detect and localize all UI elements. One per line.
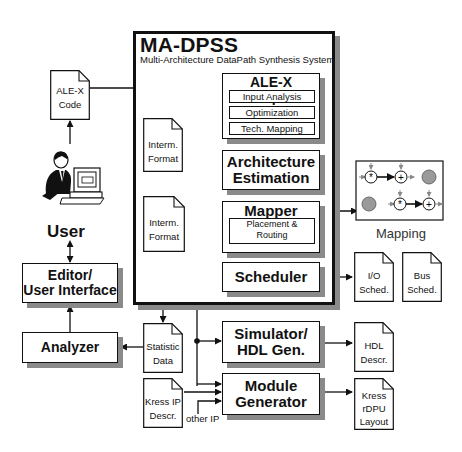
doc-bus-sched[interactable]: Bus Sched. — [402, 252, 442, 302]
scheduler-block[interactable]: Scheduler — [222, 262, 320, 292]
editor-line2: User Interface — [23, 283, 116, 298]
module-gen-line2: Generator — [235, 394, 307, 410]
doc-io-sched[interactable]: I/O Sched. — [354, 252, 394, 302]
alex-code-line2: Code — [50, 98, 90, 111]
doc-alex-code[interactable]: ALE-X Code — [50, 70, 90, 120]
module-gen-line1: Module — [245, 378, 298, 394]
arch-est-line1: Architecture — [227, 154, 315, 170]
analyzer-title: Analyzer — [41, 340, 99, 355]
module-generator-block[interactable]: Module Generator — [222, 373, 320, 415]
op-add-2: + — [426, 199, 432, 210]
architecture-estimation-block[interactable]: Architecture Estimation — [222, 150, 320, 190]
arch-est-line2: Estimation — [233, 170, 310, 186]
op-add-1: + — [398, 172, 404, 183]
hdl-descr-line1: HDL — [354, 339, 394, 352]
mapping-label: Mapping — [376, 226, 426, 241]
interm2-line1: Interm. — [143, 216, 185, 229]
editor-ui-block[interactable]: Editor/ User Interface — [22, 263, 118, 303]
simulator-line1: Simulator/ — [234, 326, 307, 342]
step-tech-mapping: Tech. Mapping — [229, 122, 315, 135]
analyzer-block[interactable]: Analyzer — [22, 332, 118, 363]
doc-kress-rdpu-layout[interactable]: Kress rDPU Layout — [354, 378, 394, 430]
simulator-line2: HDL Gen. — [237, 342, 305, 358]
kress-rdpu-line1: Kress — [354, 389, 394, 402]
unused-node-1 — [422, 170, 436, 184]
editor-line1: Editor/ — [48, 268, 92, 283]
simulator-hdl-block[interactable]: Simulator/ HDL Gen. — [222, 321, 320, 363]
doc-interm-format-1[interactable]: Interm. Format — [143, 118, 183, 172]
doc-hdl-descr[interactable]: HDL Descr. — [354, 322, 394, 372]
scheduler-title: Scheduler — [235, 269, 308, 285]
hdl-descr-line2: Descr. — [354, 353, 394, 366]
io-sched-line2: Sched. — [354, 283, 394, 296]
statistic-line2: Data — [143, 354, 183, 367]
placement-label: Placement & — [230, 219, 314, 230]
user-label: User — [47, 222, 85, 242]
placement-routing: Placement & Routing — [229, 218, 315, 244]
interm1-line2: Format — [143, 152, 183, 165]
op-multiply-1: * — [369, 172, 373, 183]
kress-ip-line2: Descr. — [143, 409, 183, 422]
mapping-illustration[interactable]: * + * + — [355, 160, 445, 222]
statistic-line1: Statistic — [143, 340, 183, 353]
mapper-title: Mapper — [244, 203, 297, 219]
system-subtitle: Multi-Architecture DataPath Synthesis Sy… — [140, 54, 334, 65]
alex-code-line1: ALE-X — [50, 84, 90, 97]
unused-node-2 — [362, 197, 376, 211]
kress-rdpu-line3: Layout — [354, 415, 394, 428]
op-multiply-2: * — [398, 199, 402, 210]
bus-sched-line1: Bus — [402, 269, 442, 282]
other-ip-label: other IP — [186, 413, 219, 424]
step-input-analysis: Input Analysis — [229, 90, 315, 103]
kress-ip-line1: Kress IP — [143, 395, 183, 408]
doc-kress-ip-descr[interactable]: Kress IP Descr. — [143, 378, 183, 428]
bus-sched-line2: Sched. — [402, 283, 442, 296]
user-figure-icon — [34, 148, 106, 220]
step-optimization: Optimization — [229, 106, 315, 119]
doc-interm-format-2[interactable]: Interm. Format — [143, 196, 185, 252]
kress-rdpu-line2: rDPU — [354, 402, 394, 415]
doc-statistic-data[interactable]: Statistic Data — [143, 323, 183, 373]
interm2-line2: Format — [143, 230, 185, 243]
routing-label: Routing — [230, 230, 314, 241]
io-sched-line1: I/O — [354, 269, 394, 282]
interm1-line1: Interm. — [143, 138, 183, 151]
